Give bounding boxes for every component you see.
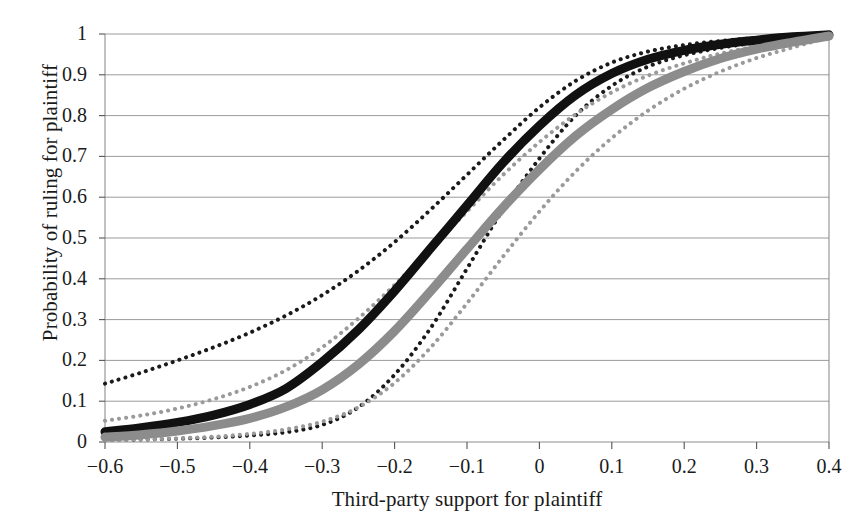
series-line-gray-upper-bound: [105, 36, 829, 421]
series-line-black-estimate: [105, 35, 829, 432]
series-line-gray-lower-bound: [105, 37, 829, 440]
series-line-gray-estimate: [105, 36, 829, 437]
